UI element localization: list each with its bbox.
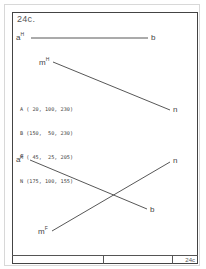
coord-n: N (175, 100, 155)	[20, 177, 73, 185]
label-m-front: mF	[38, 228, 48, 236]
label-m-superscript: H	[46, 56, 50, 62]
label-b-top: b	[151, 34, 155, 42]
label-m-text: m	[39, 58, 46, 67]
label-a-top: aH	[16, 34, 24, 42]
title-block-divider	[103, 256, 104, 264]
title-block-strip: 24c	[12, 255, 198, 264]
coord-a: A ( 20, 100, 230)	[20, 105, 73, 113]
coord-b: B (150, 50, 230)	[20, 129, 73, 137]
point-coordinates: A ( 20, 100, 230) B (150, 50, 230) M ( 4…	[20, 89, 73, 193]
label-m-top: mH	[39, 59, 49, 67]
label-m-text: m	[38, 227, 45, 236]
title-block-divider	[172, 256, 173, 264]
coord-m: M ( 45, 25, 205)	[20, 153, 73, 161]
label-b-front: b	[150, 206, 154, 214]
label-n-top: n	[173, 106, 177, 114]
label-a-superscript: F	[20, 153, 23, 159]
label-a-superscript: H	[20, 31, 24, 37]
label-n-front: n	[173, 157, 177, 165]
label-m-superscript: F	[45, 225, 48, 231]
footer-figure-number: 24c	[185, 257, 195, 263]
label-a-front: aF	[16, 156, 24, 164]
